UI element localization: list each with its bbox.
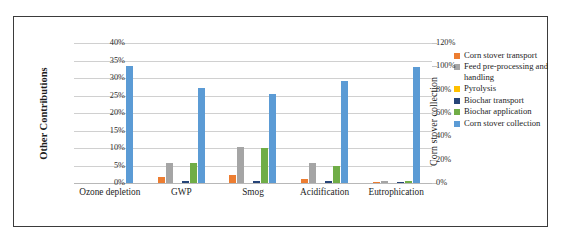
y-axis-left-tick-label: 25% [85, 91, 125, 99]
legend-swatch-icon [454, 98, 460, 104]
bar[interactable] [325, 181, 332, 183]
bar-group [360, 43, 432, 183]
legend-swatch-icon [454, 53, 460, 59]
y-axis-right-tick-label: 0% [436, 179, 478, 187]
bar[interactable] [333, 166, 340, 184]
legend-item-label: Corn stover collection [464, 118, 540, 128]
legend-item[interactable]: Corn stover collection [454, 118, 554, 128]
y-axis-left-tick-label: 30% [85, 74, 125, 82]
bar[interactable] [373, 182, 380, 183]
bar[interactable] [198, 88, 205, 183]
y-axis-left-tick-label: 35% [85, 56, 125, 64]
legend-item[interactable]: Corn stover transport [454, 50, 554, 60]
y-axis-right-tick-label: 60% [436, 109, 478, 117]
bar[interactable] [397, 182, 404, 183]
y-axis-left-tick-label: 0% [85, 179, 125, 187]
bar-group [217, 43, 289, 183]
bar[interactable] [269, 94, 276, 183]
bar[interactable] [182, 181, 189, 183]
y-axis-left-tick-label: 15% [85, 126, 125, 134]
y-axis-left-title: Other Contributions [36, 45, 50, 181]
gridline [74, 183, 432, 184]
y-axis-left-tick-label: 20% [85, 109, 125, 117]
bar[interactable] [341, 81, 348, 183]
y-axis-left-tick-label: 5% [85, 161, 125, 169]
y-axis-right-tick-label: 20% [436, 156, 478, 164]
bar[interactable] [166, 163, 173, 183]
y-axis-left-title-text: Other Contributions [38, 67, 49, 159]
bar[interactable] [158, 177, 165, 183]
bar[interactable] [309, 163, 316, 183]
y-axis-right-tick-label: 100% [436, 62, 478, 70]
bar[interactable] [253, 181, 260, 183]
bar-group [146, 43, 218, 183]
chart-frame: Other Contributions Corn stover collecti… [13, 16, 548, 227]
legend-item-label: Biochar transport [464, 95, 524, 105]
bar[interactable] [405, 181, 412, 183]
y-axis-right-tick-label: 40% [436, 132, 478, 140]
bar[interactable] [301, 179, 308, 183]
legend-item-label: Corn stover transport [464, 50, 537, 60]
bar[interactable] [381, 181, 388, 183]
bar-group [289, 43, 361, 183]
x-axis-category-label: Eutrophication [352, 187, 440, 198]
bar[interactable] [261, 148, 268, 183]
y-axis-left-tick-label: 10% [85, 144, 125, 152]
bar[interactable] [413, 67, 420, 183]
legend-item[interactable]: Biochar transport [454, 95, 554, 105]
y-axis-right-tick-label: 80% [436, 86, 478, 94]
figure-container: Other Contributions Corn stover collecti… [0, 0, 562, 249]
y-axis-right-tick-label: 120% [436, 39, 478, 47]
bar[interactable] [190, 163, 197, 183]
legend-swatch-icon [454, 121, 460, 127]
bar[interactable] [229, 175, 236, 183]
y-axis-left-tick-label: 40% [85, 39, 125, 47]
bar[interactable] [237, 147, 244, 183]
bar[interactable] [126, 66, 133, 183]
plot-area [74, 43, 432, 183]
